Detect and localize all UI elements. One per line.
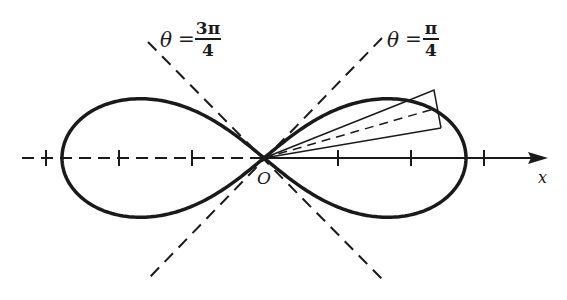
- numerator: π: [423, 19, 439, 37]
- equals-right: =: [405, 27, 422, 51]
- theta-symbol-left: θ: [160, 28, 172, 52]
- theta-symbol-right: θ: [387, 28, 399, 52]
- origin-label: O: [257, 168, 271, 188]
- fraction-3pi-4: 3π 4: [195, 19, 221, 59]
- lemniscate-diagram: [0, 0, 567, 300]
- x-axis-label: x: [538, 168, 547, 187]
- denominator: 4: [423, 41, 439, 59]
- x-axis-arrow-icon: [528, 152, 548, 164]
- area-element-wedge: [264, 90, 441, 158]
- fraction-pi-4: π 4: [423, 19, 439, 59]
- numerator: 3π: [195, 19, 221, 37]
- denominator: 4: [195, 41, 221, 59]
- equals-left: =: [178, 27, 195, 51]
